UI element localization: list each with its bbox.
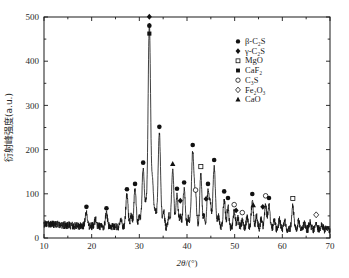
peak-marker-filled-circle-16 [206, 182, 211, 187]
peak-marker-filled-diamond-11 [178, 198, 183, 204]
peak-marker-open-circle-21 [232, 202, 237, 207]
y-tick-label-100: 100 [26, 189, 40, 199]
x-tick-label-60: 60 [278, 241, 288, 251]
peak-marker-filled-circle-4 [141, 160, 146, 165]
peak-marker-filled-circle-18 [212, 158, 217, 163]
chart-legend: β-C₂Sγ-C₂SMgOCaF₂C₃SFe₂O₃CaO [235, 36, 265, 104]
x-tick-label-30: 30 [135, 241, 145, 251]
peak-marker-open-square-15 [199, 165, 203, 169]
x-axis-tick-labels: 10203040506070 [40, 241, 336, 251]
peak-marker-filled-circle-6 [147, 23, 152, 28]
peak-marker-open-square-29 [291, 196, 295, 200]
legend-marker-filled-triangle [235, 97, 240, 102]
peak-marker-filled-circle-10 [175, 186, 180, 191]
peak-marker-filled-circle-27 [267, 196, 272, 201]
peak-marker-open-circle-23 [240, 210, 245, 215]
xrd-pattern-trace [44, 23, 330, 233]
legend-label-1: γ-C₂S [244, 46, 265, 56]
diffraction-trace [44, 23, 330, 233]
peak-marker-filled-circle-13 [190, 143, 195, 148]
x-axis-title: 2θ/(°) [176, 258, 197, 268]
x-tick-label-20: 20 [87, 241, 97, 251]
xrd-diffraction-chart: 10203040506070 0100200300400500 β-C₂Sγ-C… [0, 0, 349, 278]
peak-marker-filled-circle-20 [226, 196, 231, 201]
legend-label-2: MgO [245, 55, 263, 65]
y-axis-title: 衍射峰强度(a.u.) [3, 93, 14, 162]
y-tick-label-0: 0 [35, 233, 40, 243]
x-tick-label-40: 40 [183, 241, 193, 251]
legend-marker-filled-square [236, 69, 240, 73]
peak-marker-filled-square-7 [147, 32, 151, 36]
peak-marker-filled-circle-2 [125, 187, 130, 192]
y-tick-label-200: 200 [26, 145, 40, 155]
xrd-chart-figure: 10203040506070 0100200300400500 β-C₂Sγ-C… [0, 0, 349, 278]
legend-marker-open-square [236, 59, 240, 63]
peak-marker-filled-circle-24 [250, 192, 255, 197]
legend-marker-open-circle [236, 78, 240, 82]
y-tick-label-300: 300 [26, 101, 40, 111]
y-axis-tick-labels: 0100200300400500 [26, 12, 40, 243]
legend-label-6: CaO [245, 94, 261, 104]
peak-marker-open-diamond-30 [314, 212, 319, 218]
peak-marker-filled-triangle-9 [170, 161, 175, 166]
legend-label-0: β-C₂S [245, 36, 266, 46]
peak-marker-filled-circle-8 [157, 125, 162, 130]
peak-marker-open-circle-14 [193, 188, 198, 193]
peak-marker-filled-triangle-25 [251, 202, 256, 207]
y-tick-label-500: 500 [26, 12, 40, 22]
peak-marker-filled-circle-3 [133, 182, 138, 187]
legend-label-3: CaF₂ [245, 65, 262, 75]
peak-marker-filled-diamond-17 [204, 196, 209, 202]
legend-label-5: Fe₂O₃ [245, 85, 266, 95]
legend-marker-filled-circle [236, 39, 240, 43]
peak-marker-filled-circle-1 [104, 206, 109, 211]
legend-marker-filled-diamond [236, 48, 241, 54]
y-tick-label-400: 400 [26, 56, 40, 66]
x-tick-label-10: 10 [40, 241, 50, 251]
x-tick-label-70: 70 [326, 241, 336, 251]
peak-marker-filled-circle-19 [222, 189, 227, 194]
axis-titles: 2θ/(°)衍射峰强度(a.u.) [3, 93, 198, 268]
peak-marker-filled-circle-12 [182, 180, 187, 185]
x-tick-label-50: 50 [230, 241, 240, 251]
peak-marker-filled-circle-0 [84, 205, 89, 210]
legend-label-4: C₃S [245, 75, 259, 85]
legend-marker-open-diamond [236, 87, 241, 93]
peak-marker-filled-diamond-5 [147, 14, 152, 20]
